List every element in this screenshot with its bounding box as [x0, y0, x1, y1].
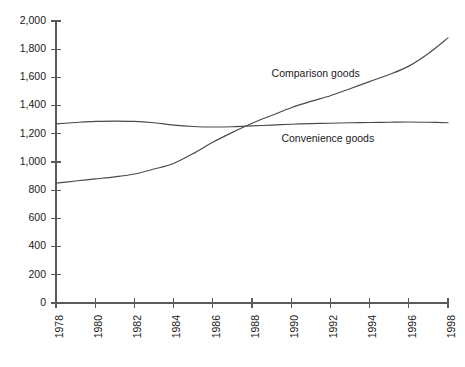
y-axis-tick-labels: 02004006008001,0001,2001,4001,6001,8002,…: [20, 14, 46, 308]
x-axis-tick-labels: 1978198019821984198619881990199219941996…: [53, 315, 457, 339]
x-tick-label: 1980: [92, 315, 104, 339]
x-tick-label: 1982: [131, 315, 143, 339]
series-line: [56, 38, 448, 183]
y-tick-label: 1,200: [20, 127, 46, 139]
x-tick-label: 1990: [288, 315, 300, 339]
x-tick-label: 1986: [210, 315, 222, 339]
y-tick-label: 1,400: [20, 98, 46, 110]
x-tick-label: 1984: [170, 315, 182, 339]
series-annotations: Comparison goodsConvenience goods: [272, 67, 375, 143]
series-label: Convenience goods: [281, 132, 374, 144]
y-tick-label: 0: [40, 296, 46, 308]
series-label: Comparison goods: [272, 67, 360, 79]
y-tick-label: 1,600: [20, 70, 46, 82]
y-tick-label: 800: [28, 183, 46, 195]
y-tick-label: 1,000: [20, 155, 46, 167]
y-tick-label: 2,000: [20, 14, 46, 26]
x-tick-label: 1988: [249, 315, 261, 339]
y-tick-label: 200: [28, 268, 46, 280]
y-tick-label: 400: [28, 239, 46, 251]
x-tick-label: 1992: [327, 315, 339, 339]
x-tick-label: 1998: [445, 315, 457, 339]
data-series-group: [56, 38, 448, 183]
series-line: [56, 121, 448, 127]
y-tick-label: 600: [28, 211, 46, 223]
chart-canvas: 02004006008001,0001,2001,4001,6001,8002,…: [0, 0, 465, 367]
y-tick-label: 1,800: [20, 42, 46, 54]
x-tick-label: 1996: [406, 315, 418, 339]
x-tick-label: 1994: [366, 315, 378, 339]
line-chart: 02004006008001,0001,2001,4001,6001,8002,…: [0, 0, 465, 367]
x-tick-label: 1978: [53, 315, 65, 339]
